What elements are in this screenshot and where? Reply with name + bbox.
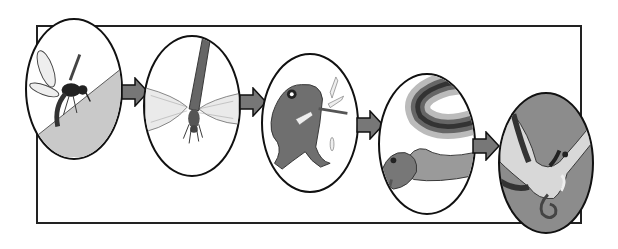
hawk-illustration xyxy=(500,94,592,232)
panel-dragonfly: Dragonfly xyxy=(143,35,241,177)
panel-snake: Snake xyxy=(378,73,476,215)
snake-illustration xyxy=(380,75,474,213)
panel-mosquito: Mosquito xyxy=(25,18,123,160)
dragonfly-illustration xyxy=(145,37,239,175)
frog-illustration xyxy=(263,55,357,191)
panel-hawk: Hawk xyxy=(498,92,594,234)
panel-frog: Frog xyxy=(261,53,359,193)
arrow-right-icon xyxy=(472,131,500,161)
mosquito-illustration xyxy=(27,20,121,158)
